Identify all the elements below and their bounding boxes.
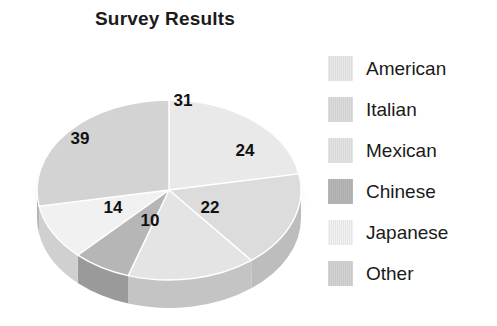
legend-item[interactable]: Japanese xyxy=(328,212,496,253)
legend-swatch-icon xyxy=(328,220,353,245)
pie-slice-value-label: 24 xyxy=(236,141,255,160)
legend-swatch-icon xyxy=(328,179,353,204)
legend-item-label: Mexican xyxy=(366,141,437,160)
pie-slice-value-label: 39 xyxy=(71,129,90,148)
legend-item[interactable]: American xyxy=(328,48,496,89)
legend-swatch-icon xyxy=(328,138,353,163)
legend-item-label: American xyxy=(366,59,446,78)
legend-swatch-icon xyxy=(328,97,353,122)
legend-item-label: Italian xyxy=(366,100,417,119)
page-title: Survey Results xyxy=(0,8,330,30)
pie-chart-svg: 312422101439 xyxy=(14,48,324,308)
legend-item[interactable]: Italian xyxy=(328,89,496,130)
chart-legend: AmericanItalianMexicanChineseJapaneseOth… xyxy=(328,48,496,294)
legend-item[interactable]: Other xyxy=(328,253,496,294)
legend-item-label: Chinese xyxy=(366,182,436,201)
pie-chart: 312422101439 xyxy=(14,48,324,308)
pie-slice-value-label: 10 xyxy=(141,211,160,230)
pie-top-faces xyxy=(37,100,301,280)
legend-swatch-icon xyxy=(328,261,353,286)
pie-slice[interactable] xyxy=(37,100,169,206)
legend-item-label: Other xyxy=(366,264,414,283)
legend-item[interactable]: Chinese xyxy=(328,171,496,212)
chart-container: Survey Results 312422101439 AmericanItal… xyxy=(0,0,497,326)
legend-swatch-icon xyxy=(328,56,353,81)
pie-slice-value-label: 22 xyxy=(201,198,220,217)
legend-item[interactable]: Mexican xyxy=(328,130,496,171)
pie-slice-value-label: 31 xyxy=(174,91,193,110)
pie-slice-value-label: 14 xyxy=(104,198,123,217)
legend-item-label: Japanese xyxy=(366,223,448,242)
